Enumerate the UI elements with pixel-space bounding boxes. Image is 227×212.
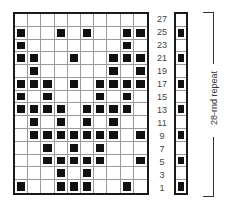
chart-cell xyxy=(107,103,120,116)
chart-cell xyxy=(28,155,41,168)
strip-cell xyxy=(176,116,186,129)
chart-cell xyxy=(28,129,41,142)
chart-cell xyxy=(134,103,147,116)
chart-cell xyxy=(28,116,41,129)
chart-cell xyxy=(15,167,28,180)
bracket-line-bottom xyxy=(213,137,214,197)
chart-cell xyxy=(81,14,94,27)
chart-cell xyxy=(55,103,68,116)
chart-cell xyxy=(134,65,147,78)
chart-cell xyxy=(41,78,54,91)
strip-cell xyxy=(176,52,186,65)
chart-cell xyxy=(134,129,147,142)
chart-cell xyxy=(81,65,94,78)
chart-cell xyxy=(41,116,54,129)
chart-cell xyxy=(15,103,28,116)
chart-cell xyxy=(94,142,107,155)
chart-cell xyxy=(55,14,68,27)
strip-cell xyxy=(176,129,186,142)
chart-cell xyxy=(81,180,94,193)
chart-cell xyxy=(41,180,54,193)
chart-cell xyxy=(41,129,54,142)
chart-cell xyxy=(28,40,41,53)
chart-cell xyxy=(121,91,134,104)
chart-cell xyxy=(41,155,54,168)
chart-cell xyxy=(134,27,147,40)
chart-cell xyxy=(107,65,120,78)
chart-cell xyxy=(121,14,134,27)
chart-cell xyxy=(121,27,134,40)
chart-cell xyxy=(94,52,107,65)
chart-cell xyxy=(121,142,134,155)
chart-cell xyxy=(121,129,134,142)
strip-cell xyxy=(176,65,186,78)
chart-cell xyxy=(107,78,120,91)
chart-cell xyxy=(55,40,68,53)
chart-cell xyxy=(15,142,28,155)
chart-cell xyxy=(94,14,107,27)
chart-cell xyxy=(81,129,94,142)
chart-cell xyxy=(68,65,81,78)
chart-cell xyxy=(121,103,134,116)
chart-cell xyxy=(15,91,28,104)
chart-cell xyxy=(81,155,94,168)
chart-cell xyxy=(81,116,94,129)
chart-cell xyxy=(94,40,107,53)
chart-cell xyxy=(121,116,134,129)
chart-cell xyxy=(107,167,120,180)
chart-cell xyxy=(28,180,41,193)
chart-cell xyxy=(81,27,94,40)
chart-cell xyxy=(94,103,107,116)
chart-cell xyxy=(107,40,120,53)
chart-cell xyxy=(81,78,94,91)
strip-cell xyxy=(176,27,186,40)
chart-cell xyxy=(55,116,68,129)
chart-cell xyxy=(81,103,94,116)
chart-cell xyxy=(94,27,107,40)
chart-cell xyxy=(15,180,28,193)
chart-cell xyxy=(94,167,107,180)
chart-cell xyxy=(121,167,134,180)
row-number-column: 27252321191715131197531 xyxy=(152,12,172,195)
chart-cell xyxy=(94,78,107,91)
chart-cell xyxy=(68,14,81,27)
chart-cell xyxy=(134,167,147,180)
bracket-top-tick xyxy=(203,12,213,13)
strip-cell xyxy=(176,91,186,104)
chart-cell xyxy=(28,142,41,155)
chart-cell xyxy=(68,167,81,180)
chart-cell xyxy=(121,180,134,193)
row-number: 1 xyxy=(152,182,172,195)
strip-cell xyxy=(176,155,186,168)
row-number: 7 xyxy=(152,143,172,156)
chart-cell xyxy=(41,52,54,65)
strip-cell xyxy=(176,103,186,116)
chart-cell xyxy=(28,27,41,40)
chart-cell xyxy=(107,14,120,27)
chart-cell xyxy=(28,14,41,27)
chart-cell xyxy=(28,78,41,91)
chart-cell xyxy=(68,180,81,193)
strip-cell xyxy=(176,167,186,180)
chart-cell xyxy=(15,116,28,129)
chart-cell xyxy=(15,40,28,53)
row-number: 11 xyxy=(152,117,172,130)
chart-cell xyxy=(15,27,28,40)
chart-cell xyxy=(68,155,81,168)
strip-cell xyxy=(176,180,186,193)
row-number: 9 xyxy=(152,130,172,143)
chart-cell xyxy=(28,65,41,78)
chart-cell xyxy=(55,52,68,65)
chart-cell xyxy=(81,40,94,53)
row-number: 3 xyxy=(152,169,172,182)
chart-cell xyxy=(94,116,107,129)
row-number: 21 xyxy=(152,51,172,64)
chart-cell xyxy=(68,142,81,155)
chart-cell xyxy=(15,52,28,65)
chart-cell xyxy=(15,155,28,168)
chart-cell xyxy=(94,180,107,193)
repeat-strip-column xyxy=(174,12,188,195)
row-number: 25 xyxy=(152,25,172,38)
strip-cell xyxy=(176,78,186,91)
strip-cell xyxy=(176,40,186,53)
